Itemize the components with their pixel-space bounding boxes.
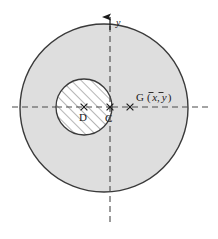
annulus-centroid-diagram: y D C G(x,y) (0, 0, 218, 239)
centroid-label-group: G(x,y) (136, 91, 172, 104)
figure-root: y D C G(x,y) (0, 0, 218, 239)
centroid-label: G(x,y) (136, 91, 172, 104)
centroid-symbol: G (136, 91, 144, 103)
point-label-d: D (79, 111, 87, 123)
centroid-close-paren: ) (168, 91, 172, 104)
y-axis-label: y (115, 17, 121, 28)
point-label-c: C (105, 112, 113, 124)
